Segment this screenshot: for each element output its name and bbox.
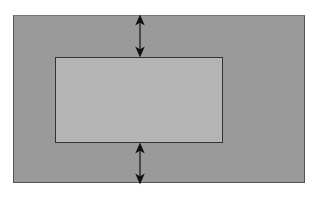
top-margin-arrow-icon [137, 16, 144, 56]
margin-arrows [0, 0, 318, 197]
bottom-margin-arrow-icon [137, 144, 144, 183]
